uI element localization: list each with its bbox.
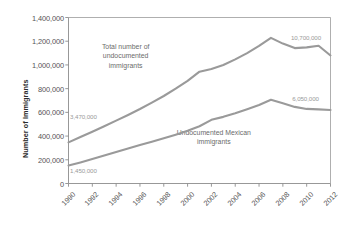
chart-container: Number of Immigrants 1,400,0001,200,0001… [0, 0, 347, 226]
series-line [69, 100, 331, 166]
plot-area [0, 0, 347, 226]
